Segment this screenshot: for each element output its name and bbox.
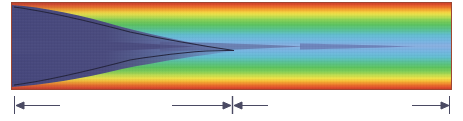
entry-left-arrowhead	[16, 102, 24, 109]
duct-field-area	[12, 3, 451, 89]
cold-core-and-boundary-layer	[12, 3, 451, 89]
cold-core-lobe-3	[300, 44, 416, 50]
dimension-annotations: Thermal entry length Thermally fully dev…	[0, 92, 463, 121]
dimension-lines	[0, 92, 463, 121]
duct-contour-plot	[11, 2, 452, 90]
thermal-entry-length-figure: Thermal entry length Thermally fully dev…	[0, 0, 463, 121]
developed-left-arrowhead	[234, 102, 242, 109]
entry-right-arrowhead	[223, 102, 231, 109]
developed-right-arrowhead	[441, 102, 449, 109]
